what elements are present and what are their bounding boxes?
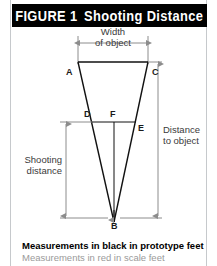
vertex-label-a: A [66,68,73,77]
shooting-distance-dimension [60,122,108,218]
figure-title-text: FIGURE 1Shooting Distance [15,8,203,24]
sight-triangle [78,62,148,222]
width-of-object-label: Width of object [83,26,143,48]
shooting-distance-label: Shooting distance [8,154,62,176]
vertex-label-d: D [84,110,91,119]
legend-line-black: Measurements in black in prototype feet [22,240,202,252]
distance-to-object-label: Distance to object [163,124,215,146]
figure-panel: FIGURE 1Shooting Distance [0,0,217,266]
vertex-label-b: B [111,222,118,231]
cross-section-line-de [92,122,136,222]
figure-number: FIGURE 1 [15,8,77,24]
diagram-canvas: A C D F E B Width of object Distance to … [0,28,217,228]
vertex-label-f: F [110,110,116,119]
distance-to-object-dimension [120,62,162,218]
vertex-label-c: C [152,68,159,77]
vertex-label-e: E [138,124,144,133]
figure-name: Shooting Distance [84,8,203,24]
figure-legend: Measurements in black in prototype feet … [22,240,202,264]
legend-line-red: Measurements in red in scale feet [22,252,202,264]
figure-title-bar: FIGURE 1Shooting Distance [12,4,207,27]
